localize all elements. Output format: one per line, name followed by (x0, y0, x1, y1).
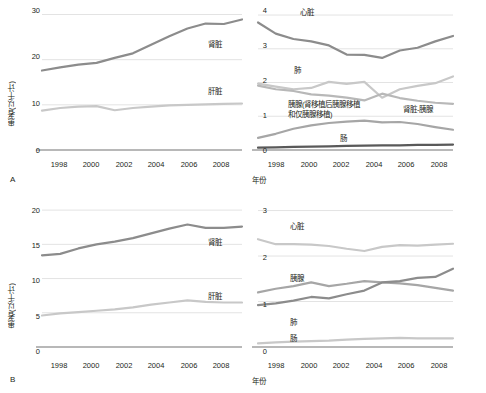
panel-a-right-xtick-2008: 2008 (426, 160, 452, 169)
transplant-patients-figure: 患者(以千计) 30 20 10 0 1998 2000 2002 2004 2… (0, 0, 486, 393)
panel-a-right-series-label-pancreas: 胰腺(肾移植后胰腺移植和仅胰腺移植) (288, 100, 366, 119)
panel-a-right-xtick-2006: 2006 (393, 160, 419, 169)
panel-a-right-xaxis-title: 年份 (252, 174, 266, 185)
panel-b-left-xtick-2004: 2004 (143, 361, 169, 370)
panel-b-right-ytick-1: 1 (249, 300, 267, 309)
panel-b-right-series-label-heart: 心脏 (290, 222, 304, 232)
panel-a-left-ytick-20: 20 (18, 52, 40, 61)
panel-a-right-xtick-2002: 2002 (328, 160, 354, 169)
panel-a-right-ytick-3: 3 (249, 41, 267, 50)
panel-b-left-xtick-2000: 2000 (78, 361, 104, 370)
panel-letter-a: A (10, 175, 15, 184)
panel-a-left-ytick-0: 0 (18, 146, 40, 155)
panel-b-left-series-label-kidney: 肾脏 (208, 238, 222, 248)
panel-b-left-ytick-0: 0 (18, 347, 40, 356)
panel-a-right-ytick-2: 2 (249, 76, 267, 85)
panel-a-left-ytick-10: 10 (18, 99, 40, 108)
panel-b-right-ytick-0: 0 (249, 347, 267, 356)
panel-b-left-xtick-2006: 2006 (176, 361, 202, 370)
panel-b-left-ytick-10: 10 (18, 276, 40, 285)
panel-a-left-series-label-liver: 肝脏 (208, 87, 222, 97)
panel-b-right-xtick-2000: 2000 (296, 361, 322, 370)
panel-a-right-ytick-1: 1 (249, 111, 267, 120)
series-line (258, 121, 453, 138)
panel-b-left-xtick-2002: 2002 (111, 361, 137, 370)
panel-a-right-xtick-1998: 1998 (263, 160, 289, 169)
series-line (258, 76, 453, 97)
panel-b-left-ytick-20: 20 (18, 206, 40, 215)
panel-b-left-xtick-2008: 2008 (208, 361, 234, 370)
panel-letter-b: B (10, 375, 15, 384)
panel-a-left-xtick-2006: 2006 (176, 160, 202, 169)
panel-b-left-xtick-1998: 1998 (46, 361, 72, 370)
panel-b-right-xtick-2006: 2006 (393, 361, 419, 370)
series-line (258, 22, 453, 57)
panel-a-left-xtick-1998: 1998 (46, 160, 72, 169)
panel-b-left-series-label-liver: 肝脏 (208, 292, 222, 302)
panel-b-left-ytick-15: 15 (18, 241, 40, 250)
panel-a-right-xtick-2004: 2004 (361, 160, 387, 169)
series-line (258, 338, 453, 343)
panel-a-right-series-label-intestine: 肠 (340, 134, 347, 144)
panel-a-right-series-label-kidney-pancreas: 肾脏-胰腺 (403, 105, 434, 115)
panel-b-right-series-label-lung: 肺 (290, 318, 297, 328)
series-line (258, 239, 453, 251)
panel-a-right-ytick-4: 4 (249, 6, 267, 15)
panel-b-right-ytick-3: 3 (249, 206, 267, 215)
panel-b-right-ytick-2: 2 (249, 253, 267, 262)
panel-a-left-xtick-2004: 2004 (143, 160, 169, 169)
panel-b-left-ytick-5: 5 (18, 312, 40, 321)
panel-b-right-xtick-2008: 2008 (426, 361, 452, 370)
panel-b-right-series-label-intestine: 肠 (290, 334, 297, 344)
panel-b-right-xtick-1998: 1998 (263, 361, 289, 370)
panel-b-right-xtick-2004: 2004 (361, 361, 387, 370)
panel-a-left-xtick-2000: 2000 (78, 160, 104, 169)
panel-a-left-xtick-2008: 2008 (208, 160, 234, 169)
panel-b-right-xaxis-title: 年份 (252, 375, 266, 386)
panel-a-right-series-label-heart: 心脏 (300, 8, 314, 18)
series-line (258, 145, 453, 148)
panel-a-right-ytick-0: 0 (249, 146, 267, 155)
panel-a-left-ylabel: 患者(以千计) (6, 38, 17, 126)
panel-a-left-xtick-2002: 2002 (111, 160, 137, 169)
panel-a-left-ytick-30: 30 (18, 6, 40, 15)
panel-a-left-series-label-kidney: 肾脏 (208, 40, 222, 50)
panel-a-right-series-label-lung: 肺 (294, 66, 301, 76)
panel-b-left-ylabel: 患者(以千计) (6, 240, 17, 328)
panel-b-right-xtick-2002: 2002 (328, 361, 354, 370)
series-line (258, 281, 453, 292)
panel-a-right-xtick-2000: 2000 (296, 160, 322, 169)
panel-b-right-series-label-pancreas: 胰腺 (290, 274, 304, 284)
